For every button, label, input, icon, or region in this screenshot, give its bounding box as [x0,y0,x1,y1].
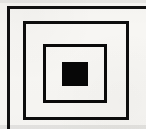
figure-canvas [0,0,146,129]
center-solid-square [62,62,88,86]
scan-edge-top [0,0,146,3]
